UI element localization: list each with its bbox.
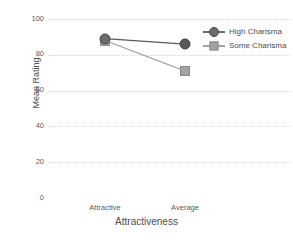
legend-item-some-charisma[interactable]: Some Charisma (203, 40, 286, 51)
legend-item-high-charisma[interactable]: High Charisma (203, 26, 286, 37)
legend: High Charisma Some Charisma (203, 26, 286, 51)
legend-label-high-charisma: High Charisma (229, 27, 282, 36)
x-axis-label: Attractiveness (0, 216, 293, 227)
data-point-some-charisma-average (180, 66, 190, 76)
y-tick-label-60: 60 (4, 86, 44, 94)
data-point-high-charisma-attractive (100, 33, 111, 44)
y-tick-label-40: 40 (4, 122, 44, 130)
line-some-charisma (105, 41, 185, 71)
x-tick-label-attractive: Attractive (65, 203, 145, 212)
data-point-high-charisma-average (180, 39, 191, 50)
legend-marker-square-icon (203, 41, 225, 51)
y-tick-label-80: 80 (4, 50, 44, 58)
x-tick-label-average: Average (145, 203, 225, 212)
y-tick-label-0: 0 (4, 194, 44, 202)
legend-label-some-charisma: Some Charisma (229, 41, 286, 50)
legend-marker-circle-icon (203, 27, 225, 37)
chart-figure: Mean Rating 100 80 60 40 20 0 Attractive… (0, 0, 293, 243)
y-tick-label-100: 100 (4, 15, 44, 23)
line-high-charisma (105, 39, 185, 44)
y-tick-label-20: 20 (4, 158, 44, 166)
